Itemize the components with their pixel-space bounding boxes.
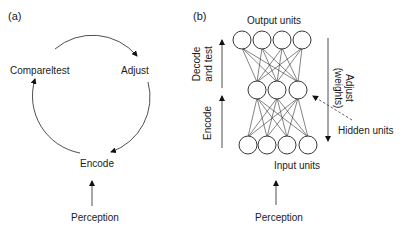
arc-adjust-to-encode — [111, 82, 150, 152]
panel-b-label: (b) — [193, 10, 206, 22]
output-unit — [273, 31, 291, 49]
output-layer — [233, 31, 311, 49]
output-units-label: Output units — [247, 15, 301, 26]
input-unit — [239, 136, 257, 154]
connections-hidden-input — [248, 98, 308, 137]
decode-label: Decode — [191, 46, 202, 81]
input-unit — [299, 136, 317, 154]
output-unit — [293, 31, 311, 49]
panel-a-label: (a) — [8, 10, 21, 22]
diagram-canvas: (a) Compareltest Adjust Encode Perceptio… — [0, 0, 404, 230]
node-compare-test: Compareltest — [10, 65, 70, 76]
weights-label: (weights) — [333, 68, 344, 109]
input-unit — [258, 136, 276, 154]
adjust-label-b: Adjust — [344, 74, 355, 102]
panel-b: (b) Output units — [191, 10, 394, 223]
connections-output-hidden — [242, 48, 302, 82]
input-unit — [278, 136, 296, 154]
perception-label-a: Perception — [71, 212, 119, 223]
node-adjust: Adjust — [121, 65, 149, 76]
hidden-unit — [289, 81, 307, 99]
arc-encode-to-compare — [32, 79, 80, 153]
hidden-unit — [268, 81, 286, 99]
encode-label-b: Encode — [202, 106, 213, 140]
output-unit — [233, 31, 251, 49]
perception-label-b: Perception — [255, 212, 303, 223]
hidden-layer — [248, 81, 307, 99]
node-encode: Encode — [80, 158, 114, 169]
input-units-label: Input units — [274, 160, 320, 171]
output-unit — [253, 31, 271, 49]
and-test-label: and test — [203, 46, 214, 82]
hidden-unit — [248, 81, 266, 99]
input-layer — [239, 136, 317, 154]
arc-compare-to-adjust — [55, 35, 137, 56]
hidden-units-label: Hidden units — [338, 125, 394, 136]
panel-a: (a) Compareltest Adjust Encode Perceptio… — [8, 10, 150, 223]
